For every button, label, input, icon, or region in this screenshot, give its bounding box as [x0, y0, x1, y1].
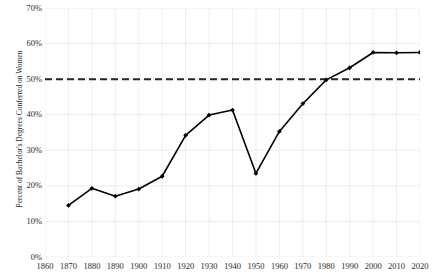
- x-tick-label: 2020: [400, 261, 433, 271]
- x-tick-label: 1890: [95, 261, 135, 271]
- data-point-marker: [230, 108, 235, 113]
- x-tick-label: 1950: [236, 261, 276, 271]
- x-tick-label: 1920: [166, 261, 206, 271]
- x-tick-label: 1910: [142, 261, 182, 271]
- x-tick-label: 1940: [213, 261, 253, 271]
- x-tick-label: 1870: [48, 261, 88, 271]
- chart-plot-svg: [45, 8, 420, 257]
- data-line-group: [68, 52, 420, 205]
- x-tick-label: 1900: [119, 261, 159, 271]
- y-axis-title: Percent of Bachelor's Degrees Conferred …: [13, 0, 27, 258]
- x-tick-label: 1860: [25, 261, 65, 271]
- data-point-marker: [394, 50, 399, 55]
- x-tick-label: 1980: [306, 261, 346, 271]
- data-point-marker: [113, 194, 118, 199]
- x-tick-label: 1930: [189, 261, 229, 271]
- x-tick-label: 1970: [283, 261, 323, 271]
- x-tick-label: 1990: [330, 261, 370, 271]
- data-markers-group: [66, 50, 420, 208]
- x-tick-label: 2010: [377, 261, 417, 271]
- x-tick-label: 1880: [72, 261, 112, 271]
- x-tick-label: 2000: [353, 261, 393, 271]
- gridlines-group: [45, 8, 420, 257]
- data-series-line: [68, 52, 420, 205]
- x-tick-label: 1960: [259, 261, 299, 271]
- plot-area: [45, 8, 420, 257]
- data-point-marker: [418, 50, 420, 55]
